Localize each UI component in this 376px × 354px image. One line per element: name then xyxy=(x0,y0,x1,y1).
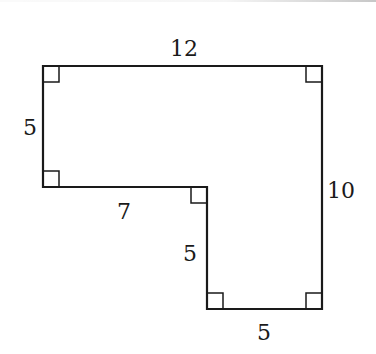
right-angle-marker-top-right xyxy=(306,66,322,82)
right-angle-marker-bottom-right xyxy=(306,293,322,309)
l-shape-outline xyxy=(43,66,322,309)
right-angle-marker-bottom-left xyxy=(43,171,59,187)
right-angle-marker-inner-corner xyxy=(191,187,207,203)
right-angle-marker-bottom-inner-left xyxy=(207,293,223,309)
label-inner-horizontal-7: 7 xyxy=(117,199,131,224)
label-left-5: 5 xyxy=(23,115,37,140)
label-inner-vertical-5: 5 xyxy=(183,241,197,266)
label-bottom-5: 5 xyxy=(257,320,271,345)
diagram-canvas: 12 5 10 7 5 5 xyxy=(0,0,376,354)
label-top-12: 12 xyxy=(170,36,198,61)
right-angle-marker-top-left xyxy=(43,66,59,82)
l-shape-figure: 12 5 10 7 5 5 xyxy=(0,0,376,354)
label-right-10: 10 xyxy=(327,178,355,203)
